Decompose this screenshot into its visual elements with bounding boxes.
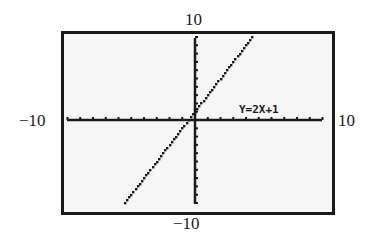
axes xyxy=(67,37,323,204)
graph-plot: Y=2X+1 xyxy=(0,0,375,245)
equation-label: Y=2X+1 xyxy=(239,103,279,116)
